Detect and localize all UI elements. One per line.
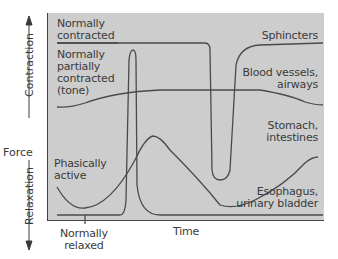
time-label: Time: [173, 226, 199, 238]
esophagus-label: Esophagus, urinary bladder: [236, 186, 318, 210]
tone-label: Normally partially contracted (tone): [57, 49, 114, 97]
sphincters-label: Sphincters: [262, 30, 318, 42]
contraction-label: Contraction: [23, 33, 36, 97]
normally-contracted-label: Normally contracted: [57, 18, 114, 42]
relaxation-label: Relaxation: [23, 167, 36, 225]
stomach-label: Stomach, intestines: [266, 120, 318, 144]
relaxed-label: Normally relaxed: [60, 228, 108, 252]
force-label: Force: [3, 146, 33, 159]
phasic-label: Phasically active: [54, 158, 107, 182]
blood-vessels-label: Blood vessels, airways: [242, 67, 318, 91]
